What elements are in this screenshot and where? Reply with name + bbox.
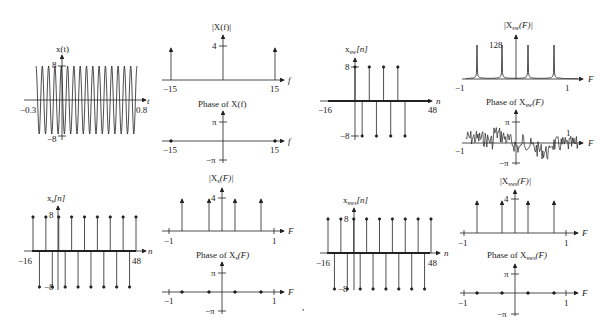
mag-X-sw-xmax: 1 <box>565 83 570 93</box>
phase-X-sws-mpi: −π <box>497 309 507 319</box>
plot-phase-X-f <box>162 111 284 163</box>
phase-X-s-axis-label: F <box>287 287 294 297</box>
x-sws-ymax: 8 <box>344 214 349 224</box>
figure: x(t) t −0.3 0.8 8 −8 |X(f)| f −15 15 4 P… <box>0 0 606 334</box>
x-sws-axis-label: n <box>444 248 449 258</box>
phase-X-sw-xmin: −1 <box>455 146 465 156</box>
x-t-title: x(t) <box>56 44 69 54</box>
mag-X-f-axis-label: f <box>288 75 292 85</box>
phase-X-f-axis-label: f <box>288 136 292 146</box>
mag-X-sws-axis-label: F <box>581 228 588 238</box>
x-t-ymin: −8 <box>47 134 57 144</box>
mag-X-f-xmax: 15 <box>270 84 280 94</box>
phase-X-s-xmax: 1 <box>272 296 277 306</box>
x-t-ymax: 8 <box>52 60 57 70</box>
x-sws-xmax: 48 <box>428 258 438 268</box>
x-s-axis-label: n <box>148 246 153 256</box>
plot-mag-X-sw-F <box>462 35 583 79</box>
plot-x-s-n <box>24 206 146 290</box>
mag-X-f-xmin: −15 <box>163 84 178 94</box>
plot-phase-X-sws-F <box>460 264 578 316</box>
x-t-axis-label: t <box>147 96 150 106</box>
x-s-title: xs[n] <box>47 193 66 204</box>
x-s-ymin: −8 <box>44 282 54 292</box>
mag-X-f-title: |X(f)| <box>212 22 231 32</box>
phase-X-f-xmin: −15 <box>163 145 178 155</box>
phase-X-sw-pi: π <box>505 117 510 127</box>
x-sw-title: xsw[n] <box>345 44 368 55</box>
x-t-xmin: −0.3 <box>20 105 37 115</box>
x-sws-xmin: −16 <box>316 258 331 268</box>
mag-X-s-xmin: −1 <box>164 236 174 246</box>
x-s-xmax: 48 <box>132 256 142 266</box>
phase-X-sw-xmax: 1 <box>566 128 571 138</box>
phase-X-f-title: Phase of X(f) <box>198 99 247 109</box>
plot-x-t <box>24 55 146 140</box>
x-sws-ymin: −8 <box>338 284 348 294</box>
x-s-xmin: −16 <box>18 256 33 266</box>
mag-X-s-xmax: 1 <box>272 236 277 246</box>
mag-X-s-ytick: 4 <box>211 193 216 203</box>
phase-X-s-xmin: −1 <box>164 296 174 306</box>
plot-mag-X-s-F <box>162 188 284 234</box>
x-sw-xmin: −16 <box>318 105 333 115</box>
plot-phase-X-s-F <box>162 262 284 314</box>
mag-X-f-ytick: 4 <box>212 41 217 51</box>
phase-X-sws-xmin: −1 <box>458 298 468 308</box>
plot-x-sws-n <box>320 208 440 290</box>
phase-X-sws-pi: π <box>504 269 509 279</box>
separator-comma: , <box>302 302 304 312</box>
mag-X-sw-title: |Xsw(F)| <box>504 20 533 31</box>
mag-X-sws-title: |Xsws(F)| <box>500 176 531 187</box>
phase-X-sws-xmax: 1 <box>564 298 569 308</box>
phase-X-sw-axis-label: F <box>587 138 594 148</box>
phase-X-s-mpi: −π <box>205 306 215 316</box>
mag-X-sws-xmax: 1 <box>564 238 569 248</box>
phase-X-sw-title: Phase of Xsw(F) <box>486 97 544 108</box>
phase-X-f-mpi: −π <box>206 155 216 165</box>
plot-mag-X-sws-F <box>460 190 578 236</box>
mag-X-s-axis-label: F <box>287 226 294 236</box>
mag-X-sw-peak-label: 128 <box>489 40 503 50</box>
mag-X-s-title: |Xs(F)| <box>209 173 234 184</box>
mag-X-sw-axis-label: F <box>587 74 594 84</box>
x-s-ymax: 8 <box>49 210 54 220</box>
x-t-xmax: 0.8 <box>136 105 148 115</box>
plot-x-sw-n <box>320 58 432 140</box>
mag-X-sws-ytick: 4 <box>504 194 509 204</box>
phase-X-f-pi: π <box>212 117 217 127</box>
x-sw-xmax: 48 <box>428 105 438 115</box>
phase-X-s-title: Phase of Xs(F) <box>196 250 249 261</box>
phase-X-s-pi: π <box>211 268 216 278</box>
phase-X-sws-title: Phase of Xsws(F) <box>487 250 547 261</box>
phase-X-sws-axis-label: F <box>581 288 588 298</box>
mag-X-sws-xmin: −1 <box>458 238 468 248</box>
plot-phase-X-sw-F <box>462 110 583 165</box>
plot-mag-X-f <box>162 35 284 80</box>
x-sws-title: xsws[n] <box>343 195 369 206</box>
phase-X-f-xmax: 15 <box>270 145 280 155</box>
x-sw-ymin: −8 <box>340 131 350 141</box>
mag-X-sw-xmin: −1 <box>455 83 465 93</box>
phase-X-sw-mpi: −π <box>499 158 509 168</box>
x-sw-ymax: 8 <box>345 62 350 72</box>
